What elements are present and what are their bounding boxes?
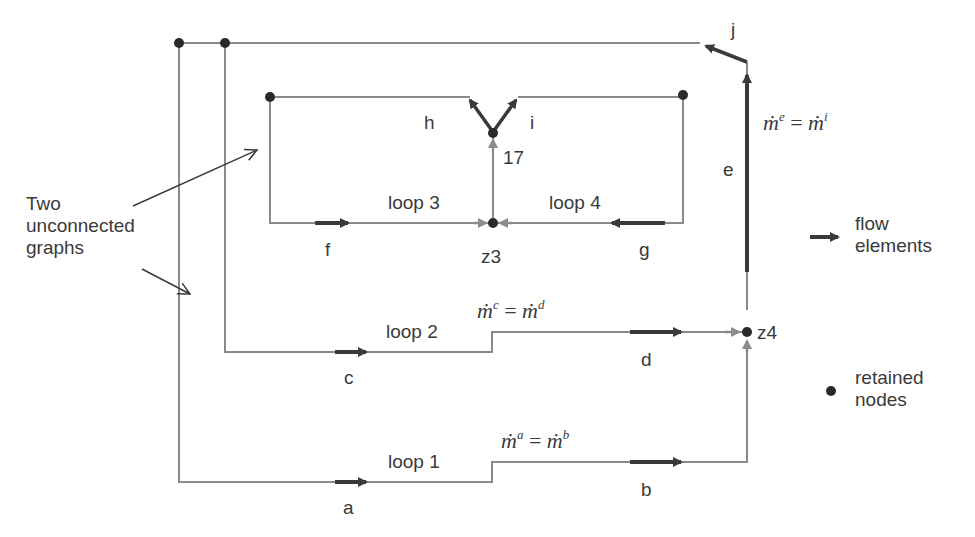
annotation-text: Two unconnected graphs (26, 193, 135, 259)
legend-nodes-line1: retained (855, 367, 924, 389)
label-loop4: loop 4 (549, 193, 601, 212)
annotation-arrow-upper (133, 150, 257, 206)
annotation-line2: unconnected (26, 215, 135, 237)
node-z4 (742, 327, 752, 337)
annotation-arrow-lower (142, 269, 190, 294)
inner-loop-outline (270, 97, 683, 223)
label-b: b (641, 480, 652, 499)
node (220, 38, 230, 48)
label-h: h (424, 113, 435, 132)
network-diagram (0, 0, 975, 537)
node (265, 92, 275, 102)
equation-a-b: ṁa = ṁb (501, 428, 569, 452)
legend-flow-elements: flow elements (855, 213, 932, 257)
label-e: e (723, 160, 734, 179)
annotation-line3: graphs (26, 237, 135, 259)
flow-element-i (493, 100, 516, 132)
legend-retained-nodes: retained nodes (855, 367, 924, 411)
label-loop3: loop 3 (388, 193, 440, 212)
label-d: d (641, 350, 652, 369)
node (678, 90, 688, 100)
label-z3: z3 (481, 247, 501, 266)
equation-c-d: ṁc = ṁd (477, 298, 544, 322)
label-c: c (344, 368, 354, 387)
loop1-path (179, 43, 747, 482)
node (174, 38, 184, 48)
label-i: i (530, 113, 534, 132)
node-z3 (488, 218, 498, 228)
legend-node-icon (826, 386, 836, 396)
flow-element-j (706, 46, 747, 62)
legend-flow-line2: elements (855, 235, 932, 257)
label-node-17: 17 (503, 148, 524, 167)
label-g: g (639, 240, 650, 259)
legend-flow-line1: flow (855, 213, 932, 235)
node-17 (488, 128, 498, 138)
label-j: j (731, 20, 735, 39)
label-loop1: loop 1 (388, 452, 440, 471)
equation-e-i: ṁe = ṁi (763, 110, 828, 134)
legend-nodes-line2: nodes (855, 389, 924, 411)
label-f: f (325, 240, 330, 259)
flow-element-h (470, 100, 493, 132)
graph-lines (179, 43, 747, 482)
label-loop2: loop 2 (386, 322, 438, 341)
retained-nodes (174, 38, 752, 337)
annotation-line1: Two (26, 193, 135, 215)
label-z4: z4 (757, 323, 777, 342)
label-a: a (343, 498, 354, 517)
